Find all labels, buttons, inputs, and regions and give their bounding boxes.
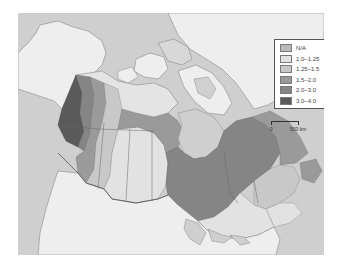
legend-swatch — [280, 97, 292, 105]
scale-bar: 0 500 km — [268, 118, 308, 132]
legend-swatch — [280, 76, 292, 84]
legend-label: N/A — [296, 45, 306, 51]
legend-swatch — [280, 55, 292, 63]
scale-tick-start — [271, 121, 272, 125]
scale-label-end: 500 km — [290, 126, 306, 132]
legend-item-3-0-4-0: 3.0–4.0 — [280, 96, 324, 107]
legend-swatch — [280, 86, 292, 94]
scale-label-start: 0 — [270, 126, 273, 132]
legend-item-2-0-3-0: 2.0–3.0 — [280, 85, 324, 96]
map-frame: N/A 1.0–1.25 1.25–1.5 1.5–2.0 2.0–3.0 3.… — [18, 13, 324, 255]
legend-label: 1.5–2.0 — [296, 77, 316, 83]
legend-label: 1.0–1.25 — [296, 56, 319, 62]
legend-swatch — [280, 44, 292, 52]
legend-item-1-25-1-5: 1.25–1.5 — [280, 64, 324, 75]
legend-item-1-5-2-0: 1.5–2.0 — [280, 75, 324, 86]
legend-item-1-0-1-25: 1.0–1.25 — [280, 54, 324, 65]
legend-item-na: N/A — [280, 43, 324, 54]
legend-label: 2.0–3.0 — [296, 87, 316, 93]
legend: N/A 1.0–1.25 1.25–1.5 1.5–2.0 2.0–3.0 3.… — [274, 39, 324, 109]
legend-swatch — [280, 65, 292, 73]
scale-line — [271, 121, 298, 122]
legend-label: 1.25–1.5 — [296, 66, 319, 72]
scale-tick-end — [298, 121, 299, 125]
legend-label: 3.0–4.0 — [296, 98, 316, 104]
